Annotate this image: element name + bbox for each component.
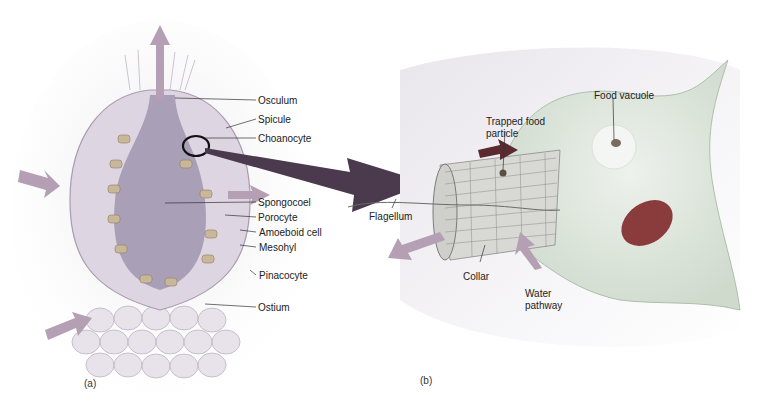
label-osculum: Osculum [258,95,297,106]
food-vacuole-particle [611,139,621,147]
label-food-vacuole: Food vacuole [594,90,654,101]
label-choanocyte: Choanocyte [258,133,311,144]
label-spicule: Spicule [258,114,291,125]
label-porocyte: Porocyte [258,212,297,223]
label-mesohyl: Mesohyl [259,242,296,253]
label-trapped-food: Trapped food [486,116,545,127]
label-collar: Collar [463,271,489,282]
sponge-base-cells [72,306,240,378]
label-ostium: Ostium [258,302,290,313]
label-water: Water [525,288,551,299]
label-flagellum: Flagellum [369,211,412,222]
panel-b-tag: (b) [420,375,432,386]
label-pinacocyte: Pinacocyte [259,270,308,281]
label-spongocoel: Spongocoel [258,197,311,208]
sponge-diagram [0,0,759,408]
label-pathway: pathway [525,300,562,311]
panel-a-tag: (a) [84,378,96,389]
trapped-food-particle [500,170,507,177]
label-particle: particle [486,128,518,139]
label-amoeboid-cell: Amoeboid cell [259,227,322,238]
